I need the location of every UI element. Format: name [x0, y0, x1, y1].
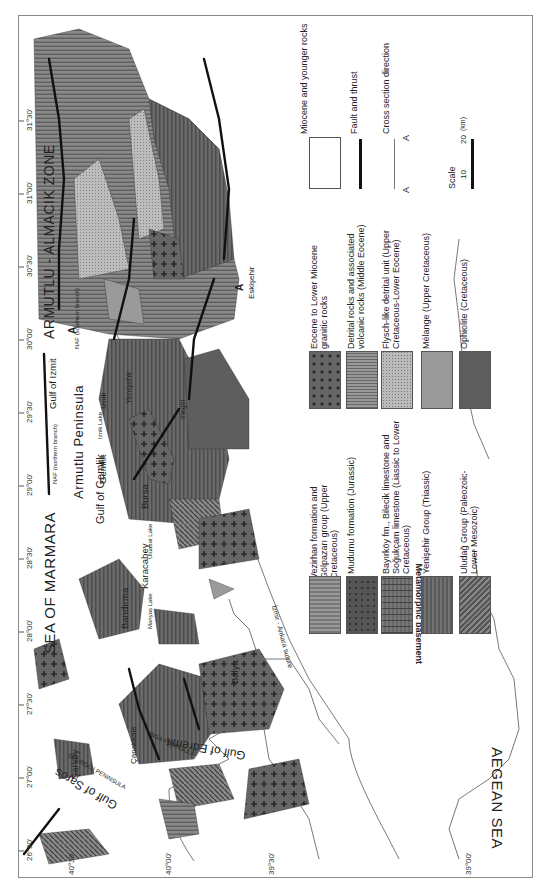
geologic-map-canvas: 26°30' 27°00' 27°30' 28°00' 28°30' 29°00… [19, 16, 534, 879]
lon-tick: 26°30' [25, 838, 34, 861]
town-balya: Balya [229, 660, 240, 684]
town-sarkoy: Şarköy [69, 749, 80, 779]
cross-section-a-end: A [401, 135, 411, 141]
legend-label: Yenişehir Group (Triassic) [421, 454, 431, 574]
town-inegol: Inegöl [179, 400, 186, 419]
aegean-sea-label: AEGEAN SEA [489, 747, 506, 849]
lon-tick: 30°30' [25, 254, 34, 277]
legend-label-fault: Fault and thrust [349, 74, 359, 134]
legend-swatch-veziran [309, 576, 341, 634]
legend-label: Flysch-like detrital unit (Upper Cretace… [381, 189, 401, 349]
scale-tick-20: 20 [459, 135, 468, 144]
naf-southern-label: NAF (southern branch) [74, 288, 80, 349]
legend-swatch-detrital [346, 351, 378, 409]
legend-item-veziran: Vezirhan formation and Gölpazarı group (… [309, 459, 339, 579]
legend-item-mudurnu: Mudurnu formation (Jurassic) [346, 454, 356, 574]
map-graphics [19, 16, 534, 879]
legend-label: Eocene to Lower Miocene granitic rocks [309, 229, 329, 349]
scale-bar [471, 139, 474, 189]
legend-item-uludag: Uludağ Group (Paleozoic-Lower Mesozoic) [459, 454, 479, 574]
iznik-lake-label: Iznik Lake [97, 412, 103, 439]
legend-swatch-yenisehir [421, 576, 453, 634]
town-bandirma: Bandırma [119, 588, 130, 629]
armutlu-peninsula-label: Armutlu Peninsula [71, 385, 86, 499]
lat-tick: 40°00' [164, 852, 173, 875]
uluabat-lake-label: Uluabat Lake [147, 524, 153, 559]
legend-label: Detrital rocks and associated volcanic r… [346, 199, 366, 349]
legend-label: Vezirhan formation and Gölpazarı group (… [309, 459, 339, 579]
legend-label: Bayırköy fm., Bilecik limestone and Soğu… [381, 414, 411, 574]
legend-swatch-bayirkoy [381, 576, 413, 634]
naf-northern-label: NAF (northern branch) [52, 424, 58, 484]
legend-swatch-mudurnu [346, 576, 378, 634]
legend-item-yenisehir: Yenişehir Group (Triassic) [421, 454, 431, 574]
map-frame: 26°30' 27°00' 27°30' 28°00' 28°30' 29°00… [18, 15, 533, 878]
legend-label: Mélange (Upper Cretaceous) [421, 229, 431, 349]
lat-tick: 40°30' [67, 852, 76, 875]
legend-label: Ophiolite (Cretaceous) [459, 229, 469, 349]
legend-label-cross-section: Cross section direction [381, 74, 391, 134]
lat-tick: 39°30' [267, 852, 276, 875]
legend-item-flysch: Flysch-like detrital unit (Upper Cretace… [381, 189, 401, 349]
lon-tick: 27°00' [25, 765, 34, 788]
town-eskisehir: Eskişehir [247, 267, 256, 299]
lon-tick: 30°00' [25, 327, 34, 350]
section-marker-a: A [67, 327, 78, 334]
legend-swatch-uludag [459, 576, 491, 634]
scale-title: Scale [447, 166, 457, 189]
armutlu-almacik-zone-label: ARMUTLU - ALMACIK ZONE [41, 144, 57, 339]
legend-label: Mudurnu formation (Jurassic) [346, 454, 356, 574]
legend-label-miocene: Miocene and younger rocks [299, 34, 309, 134]
manyas-lake-label: Manyas Lake [147, 593, 153, 629]
lat-tick: 39°00' [464, 852, 473, 875]
legend-swatch-miocene [309, 137, 341, 189]
town-canakkale: Çanakkale [129, 726, 138, 764]
legend-label: Uludağ Group (Paleozoic-Lower Mesozoic) [459, 454, 479, 574]
lon-tick: 29°30' [25, 400, 34, 423]
town-iznik: Iznik [99, 393, 108, 409]
legend-swatch-melange [421, 351, 453, 409]
scale-unit: (km) [459, 117, 466, 131]
lon-tick: 29°00' [25, 473, 34, 496]
legend-item-bayirkoy: Bayırköy fm., Bilecik limestone and Soğu… [381, 414, 411, 574]
legend-swatch-ophiolite [459, 351, 491, 409]
cross-section-a-start: A [401, 187, 411, 193]
legend-item-detrital: Detrital rocks and associated volcanic r… [346, 199, 366, 349]
cross-section-legend-line [394, 139, 395, 189]
fault-legend-line [359, 139, 362, 189]
sea-of-marmara-label: SEA OF MARMARA [41, 512, 58, 654]
lon-tick: 28°30' [25, 546, 34, 569]
lon-tick: 27°30' [25, 692, 34, 715]
legend-item-ophiolite: Ophiolite (Cretaceous) [459, 229, 469, 349]
lon-tick: 28°00' [25, 619, 34, 642]
gulf-of-izmit-label: Gulf of Izmit [47, 358, 58, 409]
lon-tick: 31°30' [25, 108, 34, 131]
legend-swatch-eocene [309, 351, 341, 409]
scale-tick-10: 10 [459, 170, 468, 179]
lon-tick: 31°00' [25, 181, 34, 204]
town-gemlik: Gemlik [97, 454, 108, 484]
legend-item-eocene: Eocene to Lower Miocene granitic rocks [309, 229, 329, 349]
legend-item-melange: Mélange (Upper Cretaceous) [421, 229, 431, 349]
legend-swatch-flysch [381, 351, 413, 409]
town-yenisehir: Yenişehir [124, 371, 133, 404]
town-bursa: Bursa [139, 484, 150, 509]
section-marker-a-prime: A [234, 284, 245, 291]
